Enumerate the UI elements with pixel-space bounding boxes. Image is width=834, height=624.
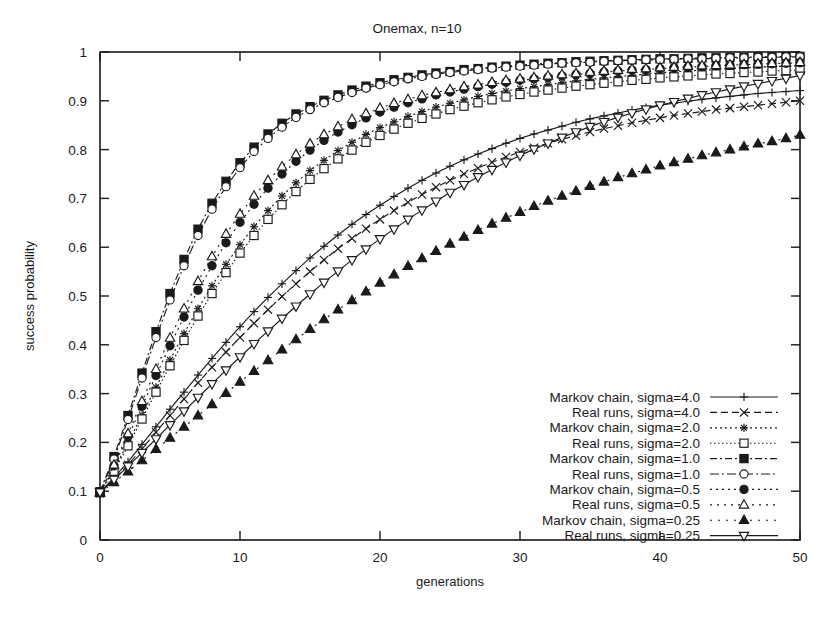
data-point-marker bbox=[348, 234, 356, 242]
x-tick-label: 50 bbox=[792, 550, 807, 565]
data-point-marker bbox=[417, 90, 426, 98]
data-point-marker bbox=[166, 296, 174, 304]
legend-label: Markov chain, sigma=1.0 bbox=[550, 451, 700, 466]
x-tick-label: 10 bbox=[232, 550, 247, 565]
data-point-marker bbox=[488, 96, 496, 104]
data-point-marker bbox=[194, 286, 202, 294]
data-point-marker bbox=[572, 82, 580, 90]
legend-marker bbox=[740, 439, 748, 447]
legend-marker bbox=[740, 424, 748, 432]
y-axis-label-group: success probability bbox=[22, 241, 37, 351]
y-tick-label: 0.7 bbox=[68, 191, 87, 206]
data-point-marker bbox=[236, 218, 244, 226]
data-point-marker bbox=[208, 289, 216, 297]
data-point-marker bbox=[263, 175, 272, 183]
data-point-marker bbox=[642, 75, 650, 83]
data-point-marker bbox=[347, 295, 356, 303]
data-point-marker bbox=[655, 161, 664, 169]
legend-label: Real runs, sigma=2.0 bbox=[572, 436, 700, 451]
data-point-marker bbox=[334, 93, 342, 101]
data-point-marker bbox=[446, 162, 454, 170]
data-point-marker bbox=[375, 278, 384, 286]
data-point-marker bbox=[501, 159, 510, 167]
data-point-marker bbox=[292, 157, 300, 165]
data-point-marker bbox=[319, 129, 328, 137]
data-point-marker bbox=[404, 198, 412, 206]
data-point-marker bbox=[222, 183, 230, 191]
data-point-marker bbox=[516, 134, 524, 142]
data-point-marker bbox=[460, 156, 468, 164]
legend-marker bbox=[740, 485, 748, 493]
y-tick-label: 0.3 bbox=[68, 387, 87, 402]
data-point-marker bbox=[544, 86, 552, 94]
legend-marker bbox=[740, 393, 748, 401]
data-point-marker bbox=[557, 191, 566, 199]
x-axis-ticks: 01020304050 bbox=[96, 52, 807, 565]
y-tick-label: 0.1 bbox=[68, 484, 87, 499]
data-point-marker bbox=[263, 328, 272, 336]
data-point-marker bbox=[194, 231, 202, 239]
data-point-marker bbox=[306, 105, 314, 113]
data-point-marker bbox=[348, 138, 356, 146]
data-point-marker bbox=[614, 57, 622, 65]
data-point-marker bbox=[361, 286, 370, 294]
data-point-marker bbox=[235, 209, 244, 217]
legend-label: Markov chain, sigma=0.25 bbox=[542, 513, 700, 528]
data-point-marker bbox=[319, 314, 328, 322]
data-point-marker bbox=[250, 200, 258, 208]
data-point-marker bbox=[249, 191, 258, 199]
legend-label: Markov chain, sigma=4.0 bbox=[550, 390, 700, 405]
data-point-marker bbox=[264, 207, 272, 215]
chart-legend: Markov chain, sigma=4.0Real runs, sigma=… bbox=[542, 390, 778, 544]
y-tick-label: 0.6 bbox=[68, 240, 87, 255]
data-point-marker bbox=[278, 201, 286, 209]
data-point-marker bbox=[305, 324, 314, 332]
data-point-marker bbox=[249, 366, 258, 374]
data-point-marker bbox=[767, 136, 776, 144]
data-point-marker bbox=[586, 115, 594, 123]
data-point-marker bbox=[432, 110, 440, 118]
data-point-marker bbox=[460, 102, 468, 110]
data-point-marker bbox=[389, 226, 398, 234]
data-point-marker bbox=[138, 415, 146, 423]
data-point-marker bbox=[278, 292, 286, 300]
data-point-marker bbox=[362, 225, 370, 233]
data-point-marker bbox=[445, 189, 454, 197]
data-point-marker bbox=[208, 363, 216, 371]
y-tick-label: 0.9 bbox=[68, 94, 87, 109]
data-point-marker bbox=[333, 305, 342, 313]
data-point-marker bbox=[403, 216, 412, 224]
legend-marker bbox=[740, 455, 748, 463]
data-point-marker bbox=[376, 124, 384, 132]
data-point-marker bbox=[390, 125, 398, 133]
data-point-marker bbox=[627, 168, 636, 176]
data-point-marker bbox=[628, 119, 636, 127]
data-point-marker bbox=[222, 260, 230, 268]
x-axis-label: generations bbox=[416, 574, 484, 589]
data-point-marker bbox=[403, 261, 412, 269]
data-point-marker bbox=[488, 145, 496, 153]
data-point-marker bbox=[502, 139, 510, 147]
data-point-marker bbox=[712, 70, 720, 78]
data-point-marker bbox=[795, 130, 804, 138]
data-point-marker bbox=[306, 166, 314, 174]
data-point-marker bbox=[250, 147, 258, 155]
data-point-marker bbox=[306, 268, 314, 276]
data-point-marker bbox=[656, 74, 664, 82]
data-point-marker bbox=[529, 201, 538, 209]
data-point-marker bbox=[193, 410, 202, 418]
data-point-marker bbox=[264, 184, 272, 192]
data-point-marker bbox=[725, 144, 734, 152]
data-point-marker bbox=[445, 239, 454, 247]
data-point-marker bbox=[460, 67, 468, 75]
data-point-marker bbox=[334, 155, 342, 163]
data-point-marker bbox=[431, 87, 440, 95]
data-point-marker bbox=[599, 177, 608, 185]
data-point-marker bbox=[348, 88, 356, 96]
data-point-marker bbox=[236, 249, 244, 257]
data-point-marker bbox=[740, 68, 748, 76]
data-point-marker bbox=[404, 119, 412, 127]
data-point-marker bbox=[291, 303, 300, 311]
data-point-marker bbox=[305, 291, 314, 299]
x-tick-label: 20 bbox=[372, 550, 387, 565]
